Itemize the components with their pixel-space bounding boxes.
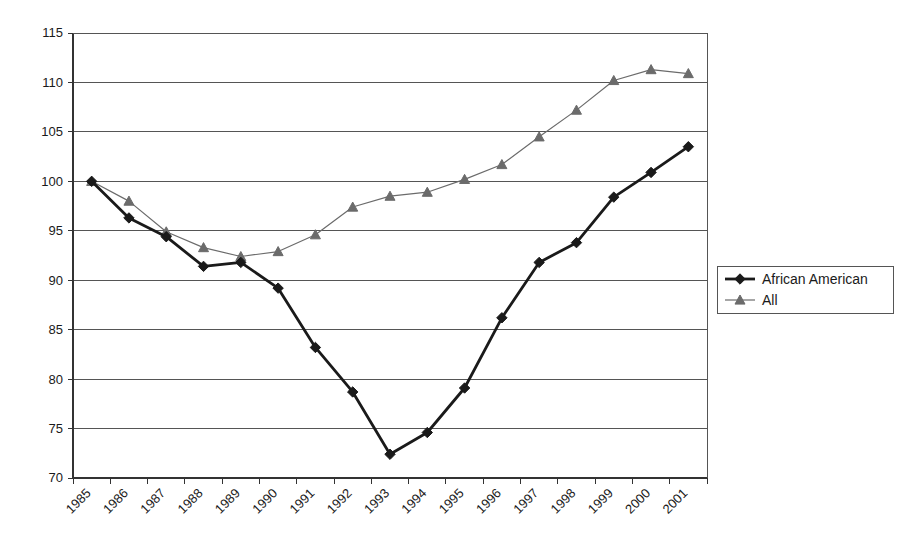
- data-point-marker: [571, 105, 581, 114]
- y-axis-tick-labels: 115110105100959085807570: [41, 25, 73, 485]
- x-tick-label: 1999: [585, 486, 616, 517]
- series-line: [92, 70, 689, 257]
- y-tick-label: 105: [41, 124, 63, 139]
- x-tick-label: 1998: [548, 486, 579, 517]
- chart-legend: African AmericanAll: [717, 266, 893, 313]
- line-chart: 115110105100959085807570 198519861987198…: [0, 0, 911, 548]
- data-point-marker: [199, 243, 209, 252]
- data-point-marker: [124, 196, 134, 205]
- axes: [73, 33, 707, 478]
- x-tick-label: 1991: [286, 486, 317, 517]
- x-tick-label: 1993: [361, 486, 392, 517]
- y-tick-label: 85: [49, 322, 63, 337]
- x-tick-label: 1988: [175, 486, 206, 517]
- y-tick-label: 100: [41, 174, 63, 189]
- data-point-marker: [497, 160, 507, 169]
- x-tick-label: 1996: [473, 486, 504, 517]
- x-tick-label: 1985: [63, 486, 94, 517]
- data-point-marker: [460, 174, 470, 183]
- x-tick-label: 1987: [137, 486, 168, 517]
- x-tick-label: 1986: [100, 486, 131, 517]
- x-axis-ticks: [73, 478, 707, 484]
- data-point-marker: [534, 132, 544, 141]
- data-series-layer: [86, 65, 693, 460]
- data-point-marker: [646, 65, 656, 74]
- y-tick-label: 110: [42, 75, 63, 90]
- y-tick-label: 90: [49, 273, 63, 288]
- data-point-marker: [422, 187, 432, 196]
- y-tick-label: 95: [49, 223, 63, 238]
- x-tick-label: 1992: [324, 486, 355, 517]
- chart-canvas: 115110105100959085807570 198519861987198…: [0, 0, 911, 548]
- series-african-american: [86, 142, 693, 460]
- x-axis-tick-labels: 1985198619871988198919901991199219931994…: [63, 486, 691, 517]
- x-tick-label: 1990: [249, 486, 280, 517]
- y-tick-label: 80: [49, 372, 63, 387]
- x-tick-label: 2000: [622, 486, 653, 517]
- y-tick-label: 70: [49, 470, 63, 485]
- y-tick-label: 75: [49, 421, 63, 436]
- legend-label: All: [762, 292, 778, 308]
- x-tick-label: 1989: [212, 486, 243, 517]
- x-tick-label: 2001: [659, 486, 690, 517]
- legend-label: African American: [762, 271, 868, 287]
- y-tick-label: 115: [42, 25, 63, 40]
- x-tick-label: 1997: [510, 486, 541, 517]
- x-tick-label: 1994: [398, 486, 429, 517]
- x-tick-label: 1995: [436, 486, 467, 517]
- data-point-marker: [273, 247, 283, 256]
